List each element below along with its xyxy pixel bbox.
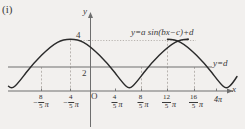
x-tick-numerator: 8 — [138, 94, 144, 101]
part-label: (i) — [2, 4, 12, 15]
x-tick-fraction: 4 5 — [68, 94, 74, 110]
figure-container: (i) y x 4 2 O y=a sin(bx−c)+d y=d − 8 5 … — [0, 0, 245, 129]
x-tick-numerator: 4 — [112, 94, 118, 101]
x-tick-label-4pi-5: 4 5 π — [111, 94, 122, 110]
midline-equation-label: y=d — [213, 59, 228, 68]
x-tick-numerator: 12 — [162, 94, 171, 101]
x-tick-denominator: 5 — [138, 103, 144, 110]
pi-symbol: π — [45, 100, 49, 110]
x-tick-fraction: 12 5 — [162, 94, 171, 110]
x-tick-label-8pi-5: 8 5 π — [137, 94, 148, 110]
x-tick-label-4pi: 4π — [214, 95, 222, 104]
y-tick-label-4: 4 — [76, 31, 81, 40]
pi-symbol: π — [118, 100, 122, 110]
x-tick-label-minus-8pi-5: − 8 5 π — [33, 94, 49, 110]
y-axis-arrow — [88, 12, 93, 18]
x-tick-numerator: 8 — [38, 94, 44, 101]
x-tick-label-16pi-5: 16 5 π — [189, 94, 203, 110]
pi-symbol: π — [75, 100, 79, 110]
x-tick-denominator: 5 — [164, 103, 170, 110]
y-tick-label-2: 2 — [82, 69, 87, 78]
x-tick-numerator: 4 — [68, 94, 74, 101]
x-tick-denominator: 5 — [68, 103, 74, 110]
origin-label: O — [91, 92, 98, 101]
x-tick-denominator: 5 — [191, 103, 197, 110]
pi-symbol: π — [172, 100, 176, 110]
x-tick-numerator: 16 — [189, 94, 198, 101]
x-tick-fraction: 8 5 — [38, 94, 44, 110]
x-tick-label-minus-4pi-5: − 4 5 π — [63, 94, 79, 110]
x-tick-fraction: 16 5 — [189, 94, 198, 110]
y-axis-label: y — [83, 7, 87, 16]
x-tick-denominator: 5 — [38, 103, 44, 110]
curve-equation-label: y=a sin(bx−c)+d — [131, 28, 193, 37]
pi-symbol: π — [199, 100, 203, 110]
sine-curve — [9, 39, 189, 87]
x-tick-fraction: 4 5 — [111, 94, 117, 110]
x-axis-label: x — [232, 85, 236, 94]
x-tick-label-12pi-5: 12 5 π — [162, 94, 176, 110]
x-tick-denominator: 5 — [112, 103, 118, 110]
x-tick-fraction: 8 5 — [137, 94, 143, 110]
pi-symbol: π — [144, 100, 148, 110]
